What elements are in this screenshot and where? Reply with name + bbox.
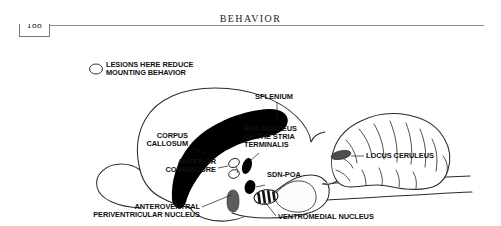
label-lesions-line2: MOUNTING BEHAVIOR [106,68,187,77]
running-title-text: BEHAVIOR [212,13,290,24]
running-title: BEHAVIOR [0,13,501,24]
label-ventromedial-nucleus: VENTROMEDIAL NUCLEUS [278,212,374,221]
label-bnst-line3: TERMINALIS [244,140,289,149]
sagittal-brain-diagram: LESIONS HERE REDUCE MOUNTING BEHAVIOR SP… [0,44,501,226]
brain-diagram-figure: LESIONS HERE REDUCE MOUNTING BEHAVIOR SP… [0,44,501,226]
sdn-poa-leader [256,185,265,187]
spinal-cord-ventral [327,192,472,200]
header-rule [50,25,484,26]
anteroventral-periventricular-nucleus-shape [227,190,239,212]
label-sdn-poa: SDN-POA [267,170,301,179]
lesion-site-marker [90,64,103,74]
label-locus-ceruleus: LOCUS CERULEUS [366,151,434,160]
page-header: 188 BEHAVIOR [0,0,501,48]
sdn-poa-shape [243,179,257,195]
label-anterior-commissure-line2: COMMISSURE [166,165,217,174]
label-splenium: SPLENIUM [255,92,293,101]
label-avpv-line2: PERIVENTRICULAR NUCLEUS [93,210,200,219]
label-corpus-callosum-line2: CALLOSUM [147,139,188,148]
